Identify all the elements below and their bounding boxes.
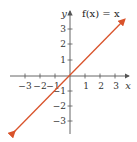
x-tick-label: 2: [98, 81, 104, 91]
y-tick-label: −2: [53, 101, 66, 111]
y-tick-label: 2: [60, 39, 66, 49]
x-tick-label: −3: [18, 81, 32, 91]
x-tick-label: 3: [113, 81, 119, 91]
y-axis-label: y: [60, 8, 67, 19]
x-axis-label: x: [125, 80, 131, 91]
y-tick-label: 3: [60, 24, 66, 34]
x-tick-label: 1: [83, 81, 89, 91]
graph: −3 −2 −1 1 2 3 3 2 1 −1 −2 −3 x y f(x) =…: [0, 0, 137, 142]
y-tick-label: −3: [53, 116, 67, 126]
x-tick-label: −2: [33, 81, 46, 91]
y-tick-label: 1: [60, 55, 66, 65]
function-label: f(x) = x: [82, 8, 120, 19]
